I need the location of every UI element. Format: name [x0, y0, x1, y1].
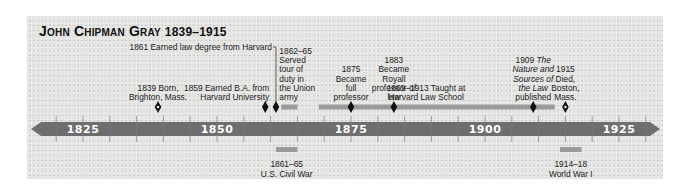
span-bars-group	[281, 105, 554, 110]
event-label: 1875Becamefullprofessor	[334, 64, 369, 102]
axis-year-label: 1850	[201, 123, 234, 136]
world-event-label: World War I	[549, 169, 593, 179]
event-label: 1859 Earned B.A. fromHarvard University	[184, 83, 270, 102]
world-event-bar	[276, 147, 297, 152]
axis-year-label: 1900	[469, 123, 502, 136]
diamond-center	[157, 106, 159, 108]
diamond-shape	[530, 101, 537, 113]
event-label-line: published	[515, 92, 551, 102]
diamond-marker	[348, 101, 355, 113]
event-label-line: army	[279, 92, 298, 102]
timeline-chart: 18251850187519001925 1839 Born,Brighton,…	[0, 0, 690, 194]
diamond-marker	[262, 101, 269, 113]
axis-group: 18251850187519001925	[31, 116, 660, 142]
event-label: 1915Died,Boston,Mass.	[551, 64, 579, 102]
axis-year-label: 1875	[335, 123, 368, 136]
axis-year-label: 1825	[67, 123, 100, 136]
diamond-shape	[391, 101, 398, 113]
world-event-bar	[560, 147, 581, 152]
labels-group: 1839 Born,Brighton, Mass.1859 Earned B.A…	[129, 42, 580, 102]
diamond-marker	[273, 101, 280, 113]
event-label: 1862–65Servedtour ofduty inthe Unionarmy	[279, 46, 315, 102]
event-label-line: Mass.	[554, 92, 576, 102]
event-label-line: 1861 Earned law degree from Harvard	[130, 42, 273, 52]
event-label-line: professor	[334, 92, 369, 102]
axis-year-label: 1925	[603, 123, 636, 136]
diamond-shape	[273, 101, 280, 113]
world-event-label: 1914–18	[554, 159, 587, 169]
diamond-marker	[391, 101, 398, 113]
diamond-center	[564, 106, 566, 108]
diamond-marker	[530, 101, 537, 113]
event-label: 1839 Born,Brighton, Mass.	[129, 83, 187, 102]
diamond-shape	[262, 101, 269, 113]
diamond-shape	[348, 101, 355, 113]
world-event-label: U.S. Civil War	[261, 169, 313, 179]
world-events-group: 1861–65U.S. Civil War1914–18World War I	[261, 147, 593, 179]
event-label-line: Brighton, Mass.	[129, 92, 187, 102]
event-label-line: Harvard University	[200, 92, 270, 102]
open-diamond-marker	[155, 101, 162, 113]
life-span-bar	[281, 105, 297, 110]
world-event-label: 1861–65	[270, 159, 303, 169]
event-label-line: Harvard Law School	[388, 92, 464, 102]
open-diamond-marker	[562, 101, 569, 113]
event-label: 1869–1913 Taught atHarvard Law School	[387, 83, 466, 102]
event-label: 1909 TheNature andSources ofthe Lawpubli…	[513, 55, 555, 102]
